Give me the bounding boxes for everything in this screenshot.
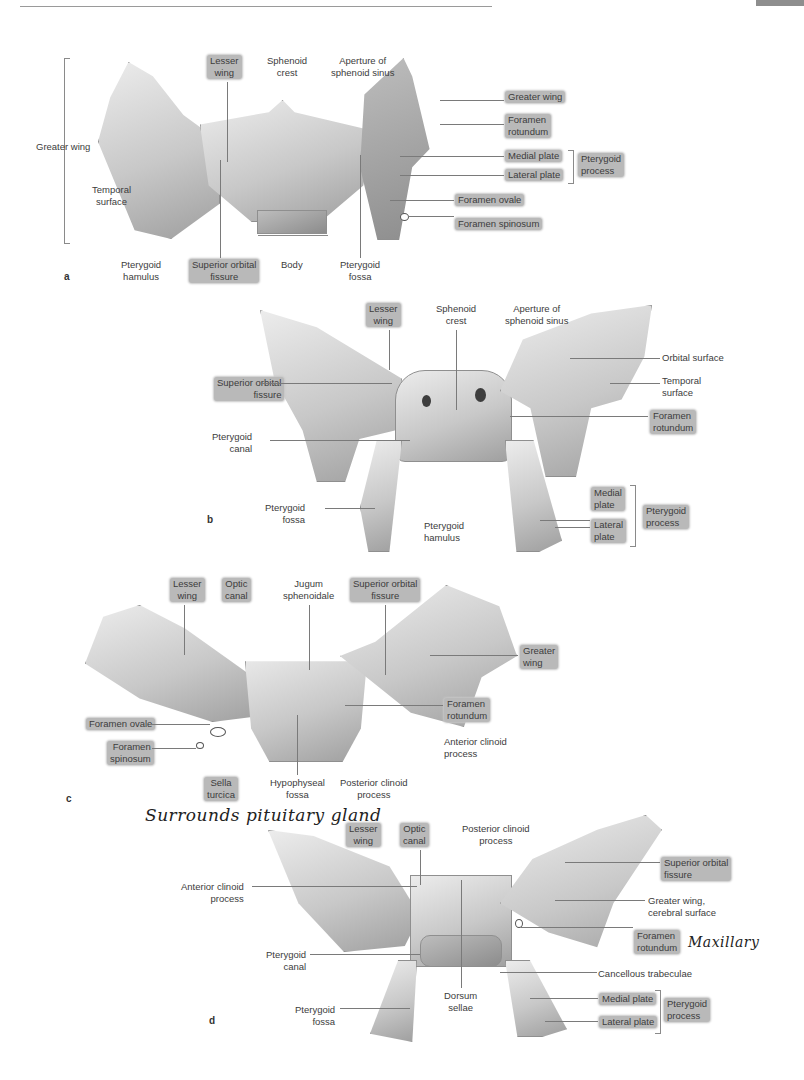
label-pterygoid-fossa: Pterygoid fossa xyxy=(295,1004,335,1028)
label-lateral-plate: Lateral plate xyxy=(505,169,563,181)
foramen-spinosum-a xyxy=(400,213,409,221)
leader-line xyxy=(461,880,462,988)
label-pterygoid-process: Pterygoid process xyxy=(664,998,710,1022)
label-pterygoid-fossa: Pterygoid fossa xyxy=(265,502,305,526)
leader-line xyxy=(390,200,454,201)
foramen-spinosum-c xyxy=(196,742,204,749)
leader-line xyxy=(510,416,648,417)
figure-letter-d: d xyxy=(209,1015,215,1026)
label-superior-orbital-fissure: Superior orbital fissure xyxy=(214,377,284,401)
label-sphenoid-crest: Sphenoid crest xyxy=(436,303,476,327)
leader-line xyxy=(345,705,443,706)
leader-line xyxy=(227,82,228,162)
leader-line xyxy=(570,358,660,359)
label-anterior-clinoid-process: Anterior clinoid process xyxy=(444,736,507,760)
leader-line xyxy=(184,605,185,655)
label-posterior-clinoid-process: Posterior clinoid process xyxy=(340,777,408,801)
header-rule xyxy=(20,6,492,7)
leader-line xyxy=(430,655,518,656)
leader-line xyxy=(297,715,298,775)
label-dorsum-sellae: Dorsum sellae xyxy=(444,990,477,1014)
label-pterygoid-process: Pterygoid process xyxy=(643,505,689,529)
label-greater-wing-right: Greater wing xyxy=(505,91,565,103)
leader-line xyxy=(456,330,457,410)
label-pterygoid-fossa: Pterygoid fossa xyxy=(340,259,380,283)
pterygoid-process-bracket xyxy=(655,990,661,1034)
leader-line xyxy=(152,748,196,749)
leader-line xyxy=(310,954,420,955)
leader-line xyxy=(400,156,504,157)
page-corner-tab xyxy=(756,0,804,6)
leader-line xyxy=(385,605,386,675)
label-optic-canal: Optic canal xyxy=(400,823,429,847)
label-greater-wing: Greater wing xyxy=(520,645,558,669)
bone-illustration-b-pterygoid-left xyxy=(360,440,402,552)
leader-line xyxy=(309,605,310,670)
leader-line xyxy=(530,998,598,999)
leader-line xyxy=(150,724,210,725)
label-lateral-plate: Lateral plate xyxy=(591,519,626,543)
figure-letter-a: a xyxy=(64,271,70,282)
label-pterygoid-hamulus: Pterygoid hamulus xyxy=(121,259,161,283)
figure-letter-c: c xyxy=(66,793,72,804)
bone-illustration-b-body xyxy=(395,370,512,462)
bone-illustration-c-left-wing xyxy=(85,605,267,722)
leader-line xyxy=(252,886,417,887)
label-medial-plate: Medial plate xyxy=(591,487,625,511)
label-foramen-ovale: Foramen ovale xyxy=(86,718,155,730)
label-superior-orbital-fissure: Superior orbital fissure xyxy=(189,259,259,283)
label-lesser-wing: Lesser wing xyxy=(207,55,242,79)
label-pterygoid-process: Pterygoid process xyxy=(578,153,624,177)
label-greater-wing-cerebral-surface: Greater wing, cerebral surface xyxy=(648,895,716,919)
label-foramen-rotundum: Foramen rotundum xyxy=(650,410,696,434)
label-sphenoid-crest: Sphenoid crest xyxy=(267,55,307,79)
label-temporal-surface: Temporal surface xyxy=(662,375,701,399)
handwritten-note-maxillary: Maxillary xyxy=(688,934,759,950)
label-pterygoid-hamulus: Pterygoid hamulus xyxy=(424,520,464,544)
leader-line xyxy=(340,1008,410,1009)
pterygoid-process-bracket xyxy=(630,485,636,547)
label-lesser-wing: Lesser wing xyxy=(366,303,401,327)
leader-line xyxy=(420,850,421,885)
label-foramen-rotundum: Foramen rotundum xyxy=(505,114,551,138)
label-body: Body xyxy=(281,259,303,271)
label-pterygoid-canal: Pterygoid canal xyxy=(212,431,252,455)
leader-line xyxy=(610,383,660,384)
label-aperture-sphenoid-sinus: Aperture of sphenoid sinus xyxy=(505,303,568,327)
label-aperture-sphenoid-sinus: Aperture of sphenoid sinus xyxy=(331,55,394,79)
leader-line xyxy=(389,330,390,370)
leader-line xyxy=(408,216,454,217)
bone-illustration-a-body xyxy=(200,100,372,222)
leader-line xyxy=(540,520,590,521)
label-optic-canal: Optic canal xyxy=(222,578,251,602)
label-foramen-ovale: Foramen ovale xyxy=(455,194,524,206)
leader-line xyxy=(440,124,504,125)
label-lesser-wing: Lesser wing xyxy=(170,578,205,602)
bone-illustration-d-left-wing xyxy=(268,830,420,952)
label-pterygoid-canal: Pterygoid canal xyxy=(266,949,306,973)
leader-line xyxy=(555,900,645,901)
leader-line xyxy=(220,160,221,258)
label-medial-plate: Medial plate xyxy=(599,993,656,1005)
label-orbital-surface: Orbital surface xyxy=(662,352,724,364)
sphenoid-sinus-left xyxy=(422,395,431,407)
label-cancellous-trabeculae: Cancellous trabeculae xyxy=(598,968,692,980)
label-hypophyseal-fossa: Hypophyseal fossa xyxy=(270,777,325,801)
label-foramen-rotundum: Foramen rotundum xyxy=(444,698,490,722)
label-sella-turcica: Sella turcica xyxy=(204,777,238,801)
leader-line xyxy=(360,155,361,258)
leader-line xyxy=(521,927,633,928)
leader-line xyxy=(440,100,504,101)
label-greater-wing: Greater wing xyxy=(36,141,90,153)
leader-line xyxy=(500,972,597,973)
label-jugum-sphenoidale: Jugum sphenoidale xyxy=(283,578,334,602)
body-bracket xyxy=(258,235,328,242)
label-superior-orbital-fissure: Superior orbital fissure xyxy=(350,578,420,602)
leader-line xyxy=(400,175,504,176)
pterygoid-process-bracket xyxy=(568,150,574,184)
figure-letter-b: b xyxy=(207,514,213,525)
label-anterior-clinoid-process: Anterior clinoid process xyxy=(181,881,244,905)
label-foramen-spinosum: Foramen spinosum xyxy=(107,741,154,765)
label-lateral-plate: Lateral plate xyxy=(599,1016,657,1028)
label-temporal-surface: Temporal surface xyxy=(92,184,131,208)
